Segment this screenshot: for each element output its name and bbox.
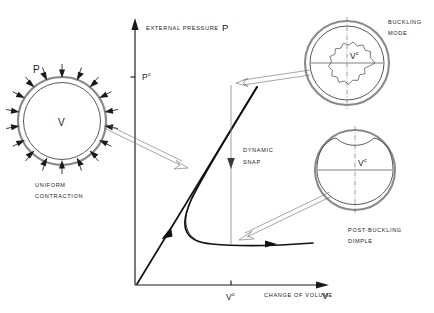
axes-group bbox=[131, 18, 330, 289]
vc-tick-label-sup: c bbox=[232, 291, 235, 297]
buckling-caption-line1: BUCKLING bbox=[388, 19, 422, 25]
buckling-caption-line2: MODE bbox=[388, 30, 407, 36]
dimple-caption-line2: DIMPLE bbox=[348, 238, 373, 244]
dimple-caption-line1: POST-BUCKLING bbox=[348, 227, 402, 233]
dynamic-snap-group: DYNAMIC SNAP bbox=[227, 85, 273, 244]
pressure-arrow bbox=[59, 160, 65, 174]
uniform-pressure-symbol: P bbox=[33, 64, 40, 75]
y-axis-symbol: P bbox=[222, 22, 228, 33]
pressure-arrow bbox=[59, 64, 65, 78]
inset-post-buckling-dimple: V c POST-BUCKLING DIMPLE bbox=[315, 126, 402, 244]
pressure-arrow bbox=[6, 108, 20, 114]
x-axis-arrowhead bbox=[316, 281, 329, 288]
inset-buckling-mode: V c BUCKLING MODE bbox=[305, 17, 422, 109]
pc-tick-label-sup: c bbox=[148, 71, 151, 77]
figure-page: EXTERNAL PRESSURE P P c CHANGE OF VOLUME… bbox=[0, 0, 434, 313]
pressure-arrow bbox=[89, 77, 98, 88]
postbuckling-branch bbox=[185, 87, 313, 246]
uniform-caption-line1: UNIFORM bbox=[35, 182, 66, 188]
x-axis-symbol: V bbox=[322, 290, 329, 301]
uniform-caption-line2: CONTRACTION bbox=[35, 193, 83, 199]
uniform-volume-symbol: V bbox=[58, 117, 65, 128]
dynamic-snap-arrowhead bbox=[227, 158, 235, 169]
pressure-arrow bbox=[13, 92, 25, 99]
dynamic-snap-label-line2: SNAP bbox=[243, 159, 261, 165]
postbuckling-direction-arrowhead bbox=[265, 241, 277, 248]
pressure-arrow bbox=[77, 67, 84, 80]
equilibrium-curve-group bbox=[137, 87, 313, 284]
prebuckling-direction-arrowhead bbox=[162, 227, 173, 239]
dimple-volume-symbol-sup: c bbox=[364, 157, 367, 163]
callout-arrow-buckling-to-peak bbox=[236, 70, 310, 87]
buckling-volume-symbol-sup: c bbox=[356, 50, 359, 56]
callout-arrow-dimple-to-branch bbox=[239, 192, 332, 240]
pressure-arrow bbox=[25, 77, 34, 88]
pressure-arrow bbox=[40, 67, 47, 80]
y-axis-label: EXTERNAL PRESSURE bbox=[146, 25, 219, 31]
inset-uniform-contraction: P V UNIFORM CONTRACTION bbox=[6, 64, 118, 199]
buckling-diagram: EXTERNAL PRESSURE P P c CHANGE OF VOLUME… bbox=[0, 0, 434, 313]
callout-arrow-uniform-to-curve bbox=[104, 124, 188, 169]
pressure-arrow bbox=[104, 108, 118, 114]
dynamic-snap-label-line1: DYNAMIC bbox=[243, 147, 273, 153]
y-axis-arrowhead bbox=[131, 18, 138, 30]
pressure-arrow bbox=[99, 92, 111, 99]
